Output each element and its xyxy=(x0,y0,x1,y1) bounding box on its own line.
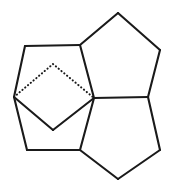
bond-center-to-right-junction xyxy=(94,97,148,98)
ring-left-outer-face xyxy=(14,45,94,150)
figure-canvas xyxy=(0,0,173,190)
bond-upper-left-to-top-left-junction xyxy=(25,45,80,46)
polycyclic-line-figure xyxy=(0,0,173,190)
